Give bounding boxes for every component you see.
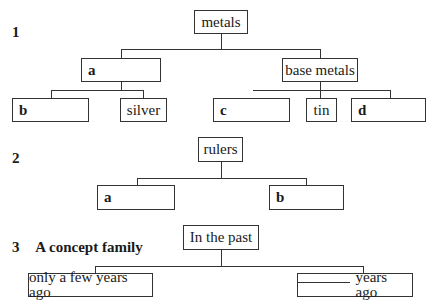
connector — [121, 49, 122, 58]
node-blank-years-ago[interactable]: years ago — [297, 273, 413, 297]
connector — [390, 90, 391, 98]
connector — [221, 250, 222, 266]
node-d-label: d — [358, 103, 366, 118]
node-base-metals-label: base metals — [285, 63, 355, 78]
connector — [137, 178, 307, 179]
node-few-years-ago-label: only a few years ago — [29, 270, 152, 300]
connector — [221, 162, 222, 178]
node-rulers-a-blank[interactable]: a — [97, 185, 175, 210]
node-blank-years-ago-label: years ago — [356, 270, 413, 300]
node-rulers-a-label: a — [104, 190, 112, 205]
node-metals: metals — [194, 10, 248, 34]
node-d-blank[interactable]: d — [351, 98, 426, 122]
node-rulers-b-blank[interactable]: b — [269, 185, 344, 210]
node-c-label: c — [220, 103, 227, 118]
connector — [95, 266, 364, 267]
connector — [121, 82, 122, 90]
diagram-1-number: 1 — [12, 24, 20, 41]
node-base-metals: base metals — [282, 58, 358, 82]
node-b-label: b — [19, 103, 27, 118]
connector — [253, 90, 391, 91]
node-silver: silver — [120, 98, 167, 122]
connector — [51, 90, 144, 91]
connector — [306, 178, 307, 185]
node-tin-label: tin — [314, 103, 330, 118]
connector — [137, 178, 138, 185]
connector — [221, 34, 222, 50]
node-rulers-label: rulers — [203, 142, 237, 157]
connector — [320, 49, 321, 58]
diagram-3-number: 3 — [12, 239, 20, 255]
node-a-label: a — [88, 63, 96, 78]
node-metals-label: metals — [201, 15, 240, 30]
node-c-blank[interactable]: c — [213, 98, 290, 122]
diagram-2-number: 2 — [12, 150, 20, 167]
node-b-blank[interactable]: b — [12, 98, 89, 122]
connector — [51, 90, 52, 98]
connector — [121, 49, 321, 50]
node-a-blank[interactable]: a — [81, 58, 161, 82]
node-few-years-ago: only a few years ago — [28, 273, 153, 297]
node-rulers: rulers — [198, 137, 243, 162]
blank-line[interactable] — [298, 282, 350, 283]
node-in-the-past-label: In the past — [190, 230, 252, 245]
node-tin: tin — [306, 98, 337, 122]
diagram-3-title: A concept family — [35, 239, 142, 255]
connector — [143, 90, 144, 98]
node-in-the-past: In the past — [183, 225, 259, 250]
node-silver-label: silver — [127, 103, 160, 118]
diagram-3-heading: 3 A concept family — [12, 239, 143, 256]
node-rulers-b-label: b — [276, 190, 284, 205]
